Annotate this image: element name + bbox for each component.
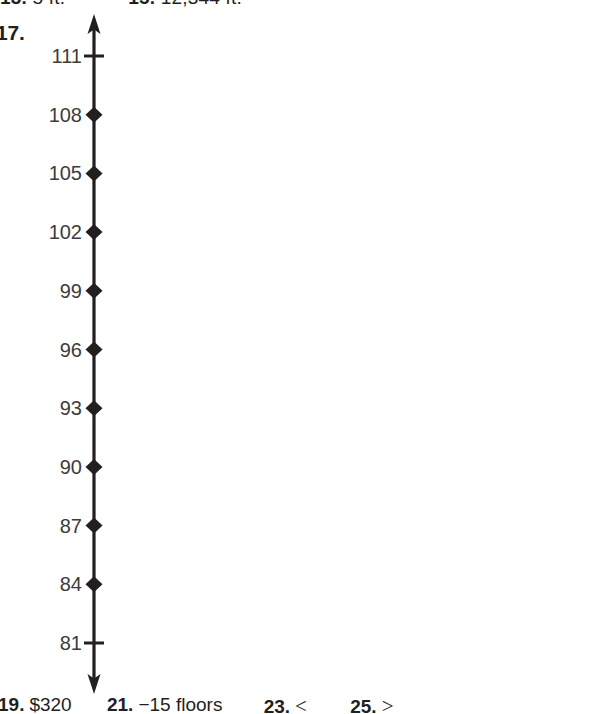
number-line-point-99 (86, 283, 103, 299)
answer-19-number: 19. (0, 694, 24, 714)
number-line-label-102: 102 (49, 221, 82, 243)
number-line-label-96: 96 (60, 339, 82, 361)
number-line-point-105 (86, 165, 103, 181)
number-line-label-111: 111 (52, 45, 82, 67)
number-line-label-108: 108 (49, 104, 82, 126)
number-line-label-84: 84 (60, 573, 82, 595)
bottom-answers-row: 19.$320 21.−15 floors 23.< 25.> (0, 694, 592, 714)
number-line-point-102 (86, 224, 103, 240)
number-line-label-93: 93 (60, 397, 82, 419)
answer-19-text: $320 (29, 694, 71, 714)
number-line-point-93 (86, 400, 103, 416)
answer-25-text: > (382, 694, 394, 714)
answer-21-text: −15 floors (138, 694, 222, 714)
number-line-label-105: 105 (49, 162, 82, 184)
answer-23-number: 23. (264, 696, 290, 714)
answer-23: 23.< (264, 694, 307, 714)
number-line-point-90 (86, 459, 103, 475)
number-line-point-87 (86, 518, 103, 534)
answer-25-number: 25. (350, 696, 376, 714)
number-line-label-99: 99 (60, 280, 82, 302)
answer-21-number: 21. (107, 694, 133, 714)
number-line-labels: 11110810510299969390878481 (49, 45, 82, 654)
number-line-label-90: 90 (60, 456, 82, 478)
number-line-point-96 (86, 342, 103, 358)
answer-21: 21.−15 floors (107, 694, 222, 714)
number-line-point-84 (86, 576, 103, 592)
number-line-label-87: 87 (60, 515, 82, 537)
answer-23-text: < (295, 694, 307, 714)
vertical-number-line-diagram: 11110810510299969390878481 (0, 0, 230, 700)
number-line-label-81: 81 (60, 632, 82, 654)
answer-25: 25.> (350, 694, 393, 714)
answer-19: 19.$320 (0, 694, 72, 714)
number-line-svg: 11110810510299969390878481 (0, 0, 230, 700)
number-line-point-108 (86, 107, 103, 123)
